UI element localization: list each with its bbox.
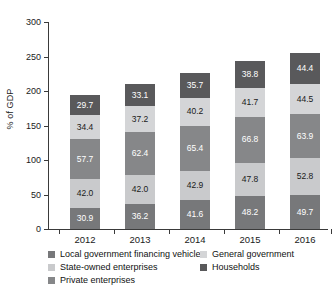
bar-segment[interactable]: 29.7	[70, 95, 100, 115]
legend-label: Local government financing vehicles	[60, 249, 205, 259]
legend-label: State-owned enterprises	[60, 262, 158, 272]
bar-segment[interactable]: 62.4	[125, 132, 155, 175]
x-tick	[224, 229, 225, 234]
legend-item-households[interactable]: Households	[200, 262, 335, 272]
x-tick-label-2015: 2015	[239, 234, 260, 245]
bar-2014[interactable]: 41.642.965.440.235.7	[180, 73, 210, 229]
bar-segment[interactable]: 40.2	[180, 98, 210, 126]
legend-item-general-government[interactable]: General government	[200, 249, 335, 259]
x-tick-label-2016: 2016	[294, 234, 315, 245]
bar-segment-value: 42.9	[187, 181, 204, 190]
y-tick-100	[44, 160, 49, 161]
y-tick-label: 200	[26, 86, 41, 96]
bar-segment[interactable]: 41.7	[235, 88, 265, 117]
bar-segment-value: 30.9	[77, 214, 94, 223]
legend-label: Households	[212, 262, 260, 272]
bar-segment-value: 49.7	[297, 208, 314, 217]
bar-segment[interactable]: 37.2	[125, 106, 155, 132]
bar-segment-value: 44.5	[297, 95, 314, 104]
legend-label: General government	[212, 249, 294, 259]
bar-segment-value: 34.4	[77, 123, 94, 132]
bar-2016[interactable]: 49.752.863.944.544.4	[290, 53, 320, 229]
x-tick-label-2013: 2013	[129, 234, 150, 245]
legend-item-local-government-financing-vehicles[interactable]: Local government financing vehicles	[48, 249, 200, 259]
x-tick	[169, 229, 170, 234]
bar-segment-value: 44.4	[297, 64, 314, 73]
y-axis-title: % of GDP	[5, 64, 15, 154]
legend-swatch-icon	[48, 277, 55, 284]
bar-segment-value: 57.7	[77, 155, 94, 164]
bar-segment-value: 48.2	[242, 208, 259, 217]
legend-swatch-icon	[48, 264, 55, 271]
bar-segment[interactable]: 30.9	[70, 208, 100, 229]
bar-segment-value: 42.0	[77, 189, 94, 198]
bar-segment[interactable]: 36.2	[125, 204, 155, 229]
legend-swatch-icon	[200, 251, 207, 258]
bar-segment[interactable]: 44.5	[290, 84, 320, 115]
bar-segment-value: 35.7	[187, 81, 204, 90]
legend-label: Private enterprises	[60, 275, 135, 285]
bar-segment-value: 63.9	[297, 132, 314, 141]
bar-segment[interactable]: 42.0	[125, 175, 155, 204]
bar-segment[interactable]: 42.9	[180, 171, 210, 201]
bar-segment-value: 52.8	[297, 172, 314, 181]
bar-2012[interactable]: 30.942.057.734.429.7	[70, 95, 100, 229]
x-tick	[114, 229, 115, 234]
bar-segment-value: 66.8	[242, 135, 259, 144]
bar-segment[interactable]: 52.8	[290, 158, 320, 194]
y-tick-0	[44, 229, 49, 230]
bar-segment-value: 47.8	[242, 175, 259, 184]
bar-segment[interactable]: 33.1	[125, 84, 155, 107]
bar-segment-value: 40.2	[187, 107, 204, 116]
y-tick-label: 250	[26, 52, 41, 62]
y-tick-150	[44, 126, 49, 127]
y-tick-label: 150	[26, 121, 41, 131]
bar-segment-value: 41.7	[242, 98, 259, 107]
bar-segment-value: 37.2	[132, 115, 149, 124]
bar-segment[interactable]: 48.2	[235, 196, 265, 229]
legend-row: State-owned enterprises Households	[48, 262, 335, 272]
bar-segment[interactable]: 38.8	[235, 61, 265, 88]
y-tick-300	[44, 22, 49, 23]
plot-area: 050100150200250300 30.942.057.734.429.73…	[48, 22, 328, 230]
y-tick-label: 50	[31, 190, 41, 200]
bar-2013[interactable]: 36.242.062.437.233.1	[125, 84, 155, 229]
x-tick-label-2012: 2012	[74, 234, 95, 245]
y-tick-200	[44, 91, 49, 92]
bar-segment[interactable]: 47.8	[235, 163, 265, 196]
bar-2015[interactable]: 48.247.866.841.738.8	[235, 61, 265, 229]
legend-swatch-icon	[48, 251, 55, 258]
bar-segment-value: 65.4	[187, 144, 204, 153]
chart-legend: Local government financing vehicles Gene…	[48, 249, 335, 288]
x-tick	[331, 229, 332, 234]
bar-segment[interactable]: 44.4	[290, 53, 320, 84]
x-tick-label-2014: 2014	[184, 234, 205, 245]
legend-swatch-icon	[200, 264, 207, 271]
bar-segment[interactable]: 42.0	[70, 179, 100, 208]
y-tick-label: 300	[26, 17, 41, 27]
bar-segment[interactable]: 49.7	[290, 195, 320, 229]
bar-segment[interactable]: 35.7	[180, 73, 210, 98]
bar-segment-value: 36.2	[132, 212, 149, 221]
legend-row: Local government financing vehicles Gene…	[48, 249, 335, 259]
bar-segment-value: 29.7	[77, 101, 94, 110]
stacked-bar-chart: % of GDP 050100150200250300 30.942.057.7…	[0, 0, 335, 307]
y-tick-50	[44, 195, 49, 196]
bar-segment-value: 62.4	[132, 149, 149, 158]
y-tick-label: 0	[36, 224, 41, 234]
legend-row: Private enterprises	[48, 275, 335, 285]
legend-item-state-owned-enterprises[interactable]: State-owned enterprises	[48, 262, 200, 272]
x-tick	[279, 229, 280, 234]
legend-item-private-enterprises[interactable]: Private enterprises	[48, 275, 200, 285]
bar-segment[interactable]: 63.9	[290, 114, 320, 158]
bar-segment[interactable]: 57.7	[70, 139, 100, 179]
bar-segment[interactable]: 34.4	[70, 115, 100, 139]
x-tick	[59, 229, 60, 234]
bar-segment-value: 42.0	[132, 185, 149, 194]
bar-segment-value: 38.8	[242, 70, 259, 79]
bar-segment[interactable]: 65.4	[180, 126, 210, 171]
bar-segment[interactable]: 41.6	[180, 200, 210, 229]
bar-segment-value: 33.1	[132, 91, 149, 100]
bar-segment[interactable]: 66.8	[235, 117, 265, 163]
bar-segment-value: 41.6	[187, 210, 204, 219]
